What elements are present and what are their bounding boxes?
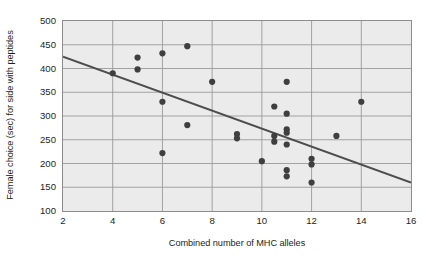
x-tick-label: 10 [247, 215, 277, 226]
x-tick-label: 8 [197, 215, 227, 226]
x-tick-label: 14 [346, 215, 376, 226]
x-axis-label: Combined number of MHC alleles [62, 238, 412, 248]
y-tick-label: 300 [26, 111, 56, 121]
data-points [110, 43, 365, 186]
gridlines [63, 21, 411, 211]
y-tick-label: 150 [26, 182, 56, 192]
scatter-chart: Female choice (sec) for side with peptid… [0, 0, 430, 261]
x-tick-label: 2 [48, 215, 78, 226]
x-tick-label: 6 [147, 215, 177, 226]
y-axis-label: Female choice (sec) for side with peptid… [3, 7, 17, 223]
y-tick-label: 250 [26, 135, 56, 145]
x-tick-label: 16 [396, 215, 426, 226]
y-tick-label: 400 [26, 64, 56, 74]
plot-area [62, 20, 412, 212]
y-tick-label: 500 [26, 16, 56, 26]
y-tick-label: 200 [26, 159, 56, 169]
plot-svg [63, 21, 411, 211]
y-tick-label: 100 [26, 206, 56, 216]
x-tick-label: 12 [297, 215, 327, 226]
y-tick-label: 450 [26, 40, 56, 50]
x-tick-label: 4 [98, 215, 128, 226]
y-tick-label: 350 [26, 87, 56, 97]
